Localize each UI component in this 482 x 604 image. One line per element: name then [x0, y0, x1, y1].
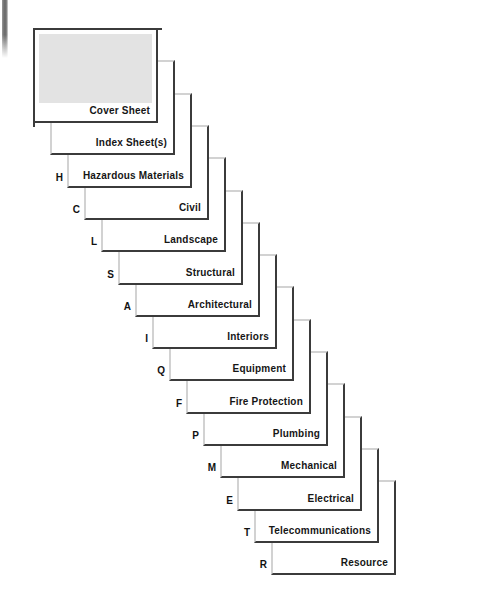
discipline-letter: P	[177, 430, 199, 442]
sheet-label: Hazardous Materials	[83, 170, 184, 182]
sheet-left-edge	[33, 28, 35, 127]
sheet-label: Index Sheet(s)	[96, 137, 167, 149]
sheet-label: Telecommunications	[269, 525, 371, 537]
sheet-label: Fire Protection	[229, 396, 303, 408]
discipline-letter: F	[160, 398, 182, 410]
sheet-label: Cover Sheet	[89, 105, 150, 117]
discipline-letter: Q	[143, 365, 165, 377]
sheet-label: Resource	[341, 557, 388, 569]
sheet-label: Civil	[179, 202, 201, 214]
sheet-label: Mechanical	[281, 460, 337, 472]
sheet-label: Electrical	[308, 493, 354, 505]
discipline-letter: H	[41, 172, 63, 184]
sheet-label: Landscape	[164, 234, 218, 246]
sheet-label: Architectural	[188, 299, 252, 311]
sheet-label: Plumbing	[273, 428, 320, 440]
diagram-canvas: ResourceRTelecommunicationsTElectricalEM…	[0, 0, 482, 604]
discipline-letter: S	[92, 269, 114, 281]
sheet-label: Interiors	[227, 331, 269, 343]
drawing-sheet-stack: ResourceRTelecommunicationsTElectricalEM…	[0, 0, 482, 604]
discipline-letter: L	[75, 236, 97, 248]
drawing-sheet[interactable]: Cover Sheet	[33, 28, 158, 123]
discipline-letter: R	[245, 559, 267, 571]
discipline-letter: M	[194, 462, 216, 474]
discipline-letter: C	[58, 204, 80, 216]
discipline-letter: T	[228, 527, 250, 539]
sheet-label: Structural	[186, 267, 235, 279]
cover-sheet-artwork	[39, 34, 152, 103]
sheet-top-edge	[33, 28, 162, 30]
discipline-letter: A	[109, 301, 131, 313]
sheet-label: Equipment	[233, 363, 286, 375]
discipline-letter: E	[211, 495, 233, 507]
discipline-letter: I	[126, 333, 148, 345]
